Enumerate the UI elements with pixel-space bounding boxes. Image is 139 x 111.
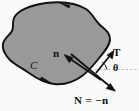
label-outward-normal-equation: N = −n	[74, 95, 109, 106]
label-tangent-T: T	[113, 47, 120, 58]
label-angle-theta: θ	[113, 63, 118, 73]
figure-closed-curve-normals: n T θ C N = −n	[0, 0, 139, 111]
label-curve-C: C	[30, 60, 37, 71]
label-inward-normal-n: n	[53, 48, 59, 59]
shaded-region	[3, 2, 110, 84]
